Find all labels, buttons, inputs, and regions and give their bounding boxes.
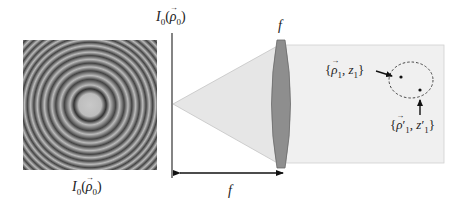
label-rho: ρ (396, 118, 402, 131)
brace-close: } (358, 62, 364, 77)
ring-intensity-pattern (23, 40, 157, 170)
distance-label: f (228, 184, 232, 198)
label-rho: ρ (86, 180, 93, 194)
diagram-canvas (0, 0, 464, 204)
label-rho: ρ (331, 63, 337, 76)
point-2-dot (418, 88, 421, 91)
point-1-label: {ρ1, z1} (325, 63, 364, 80)
pattern-label: I0(ρ0) (72, 180, 102, 197)
plane-label: I0(ρ0) (156, 10, 186, 27)
light-cone (173, 44, 281, 165)
point-1-dot (399, 75, 402, 78)
lens (272, 40, 291, 168)
point-2-label: {ρ′1, z′1} (390, 118, 435, 135)
label-rho: ρ (170, 10, 177, 24)
lens-focal-label: f (278, 19, 282, 33)
brace-close: } (429, 117, 435, 132)
